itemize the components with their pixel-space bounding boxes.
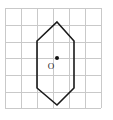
figure-canvas: O <box>0 0 113 120</box>
figure-background <box>0 0 113 120</box>
center-point-dot <box>55 56 59 60</box>
center-point-label: O <box>48 61 55 71</box>
geometry-figure: O <box>0 0 113 120</box>
